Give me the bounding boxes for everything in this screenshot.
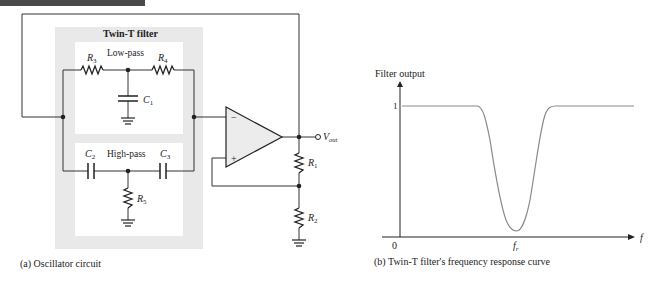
origin-label: 0 <box>392 240 397 251</box>
highpass-label: High-pass <box>107 149 146 159</box>
label-r1: R1 <box>307 157 318 170</box>
lowpass-label: Low-pass <box>107 48 144 58</box>
response-curve <box>402 106 634 231</box>
frequency-response-chart: Filter output 1 0 f fr <box>375 68 644 253</box>
resistor-r2 <box>295 208 303 228</box>
diagram-canvas: − + Twin-T filter Low-pass High-pass R3 … <box>0 0 656 285</box>
x-axis-label: f <box>640 232 644 243</box>
notch-frequency-label: fr <box>513 240 519 253</box>
label-r2: R2 <box>307 212 318 225</box>
y-axis-label: Filter output <box>375 68 425 79</box>
caption-b: (b) Twin-T filter's frequency response c… <box>374 256 550 267</box>
vout-terminal <box>316 135 321 140</box>
resistor-r1 <box>295 153 303 173</box>
opamp-minus-label: − <box>231 112 237 123</box>
label-vout: Vout <box>323 131 338 143</box>
y-tick-1: 1 <box>393 101 398 111</box>
opamp-plus-label: + <box>231 153 237 164</box>
twin-t-title: Twin-T filter <box>103 28 158 39</box>
y-axis-arrow-icon <box>397 81 403 87</box>
x-axis-arrow-icon <box>628 234 635 240</box>
caption-a: (a) Oscillator circuit <box>20 258 101 269</box>
